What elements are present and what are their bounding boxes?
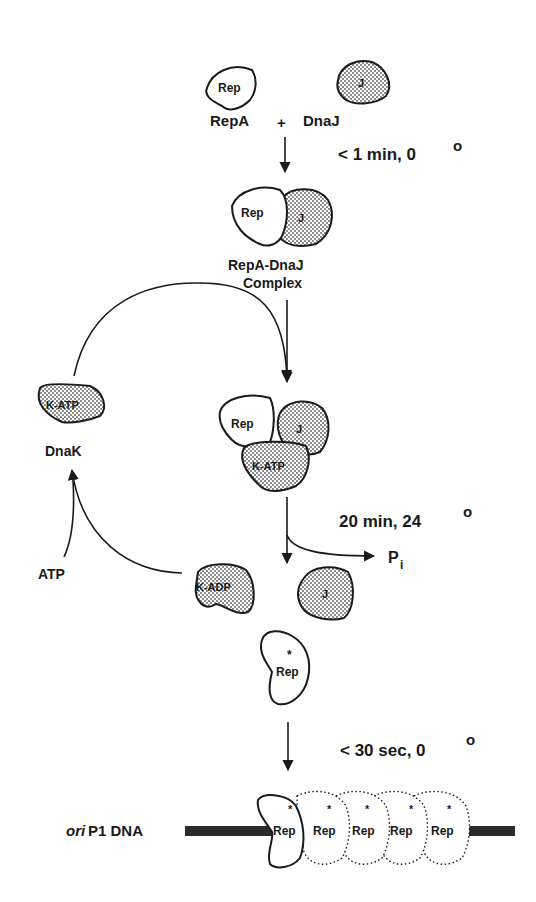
svg-text:Rep: Rep <box>431 824 454 838</box>
arrow-pi-release <box>287 535 374 556</box>
dnak-katp-protein: K-ATP <box>39 384 105 423</box>
plus-sign: + <box>277 114 286 131</box>
complex-repA: Rep <box>232 188 287 246</box>
degree-step3: o <box>463 503 472 520</box>
dnak-label: DnaK <box>45 443 82 459</box>
svg-text:*: * <box>288 803 293 815</box>
pi-label: P <box>388 549 399 566</box>
ternary-katp-label: K-ATP <box>252 460 285 472</box>
activated-rep: * Rep <box>261 631 309 704</box>
ternary-katp: K-ATP <box>242 442 309 491</box>
condition-step4: < 30 sec, 0 <box>340 741 426 760</box>
svg-text:*: * <box>409 803 414 815</box>
repA-label: RepA <box>210 112 249 129</box>
pi-subscript: i <box>400 558 403 572</box>
dnaJ-label: DnaJ <box>303 112 340 129</box>
atp-input-line <box>64 480 74 557</box>
ternary-repA: Rep <box>220 396 274 447</box>
cycle-arc-bottom <box>72 470 182 573</box>
dnaJ-blob-label: J <box>358 77 364 89</box>
dotted-rep-1: * Rep <box>297 791 349 864</box>
kadp-label: K-ADP <box>196 581 231 593</box>
degree-step4: o <box>466 731 475 748</box>
condition-step3: 20 min, 24 <box>339 512 422 531</box>
svg-text:*: * <box>365 803 370 815</box>
complex-rep-label: Rep <box>241 206 264 220</box>
released-j-label: J <box>322 588 328 600</box>
repA-protein: Rep <box>206 67 255 109</box>
degree-step1: o <box>453 137 462 154</box>
condition-step1: < 1 min, 0 <box>338 145 416 164</box>
repA-blob-label: Rep <box>218 81 241 95</box>
dnaJ-protein: J <box>337 61 389 104</box>
pathway-diagram: Rep J RepA + DnaJ < 1 min, 0 o J Rep Rep… <box>0 0 536 902</box>
ternary-rep-label: Rep <box>231 417 254 431</box>
svg-text:Rep: Rep <box>352 824 375 838</box>
complex-label-line2: Complex <box>243 275 302 291</box>
complex-label-line1: RepA-DnaJ <box>228 257 303 273</box>
svg-text:Rep: Rep <box>313 824 336 838</box>
released-dnaJ: J <box>298 567 353 619</box>
complex-j-label: J <box>298 212 304 224</box>
ori-label-italic: ori <box>66 822 86 839</box>
cycle-arc-top <box>74 283 287 380</box>
svg-text:*: * <box>447 803 452 815</box>
cycle-katp-label: K-ATP <box>46 399 79 411</box>
activated-rep-label: Rep <box>276 665 299 679</box>
atp-label: ATP <box>38 566 65 582</box>
ori-label-rest: P1 DNA <box>88 822 143 839</box>
activated-rep-star: * <box>287 648 292 662</box>
svg-text:Rep: Rep <box>273 824 296 838</box>
kadp-protein: K-ADP <box>196 564 254 613</box>
svg-text:*: * <box>327 803 332 815</box>
svg-text:Rep: Rep <box>390 824 413 838</box>
ternary-j-label: J <box>296 423 302 435</box>
